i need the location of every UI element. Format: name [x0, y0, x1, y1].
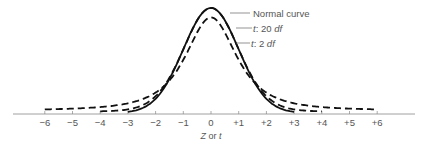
tick-label: +1: [233, 117, 244, 128]
tick-label: 0: [208, 117, 213, 128]
curves: [45, 8, 377, 112]
curve-t2: [45, 17, 377, 109]
tick-label: −3: [122, 117, 133, 128]
tick-label: +6: [372, 117, 383, 128]
x-axis-ticks: −6−5−4−3−2−10+1+2+3+4+5+6: [39, 111, 382, 128]
tick-label: +4: [316, 117, 327, 128]
curve-t20: [100, 8, 322, 112]
tick-label: −4: [95, 117, 106, 128]
x-axis-label: Z or t: [199, 131, 222, 141]
tick-label: −5: [67, 117, 78, 128]
legend-normal-curve: Normal curve: [253, 8, 310, 19]
tick-label: −1: [178, 117, 189, 128]
tick-label: +2: [261, 117, 272, 128]
distribution-chart: −6−5−4−3−2−10+1+2+3+4+5+6 Normal curve t…: [0, 0, 426, 148]
tick-label: −2: [150, 117, 161, 128]
tick-label: +3: [289, 117, 300, 128]
tick-label: −6: [39, 117, 50, 128]
legend-t2: t: 2 df: [251, 38, 276, 49]
tick-label: +5: [344, 117, 355, 128]
legend-t20: t: 20 df: [253, 23, 283, 34]
